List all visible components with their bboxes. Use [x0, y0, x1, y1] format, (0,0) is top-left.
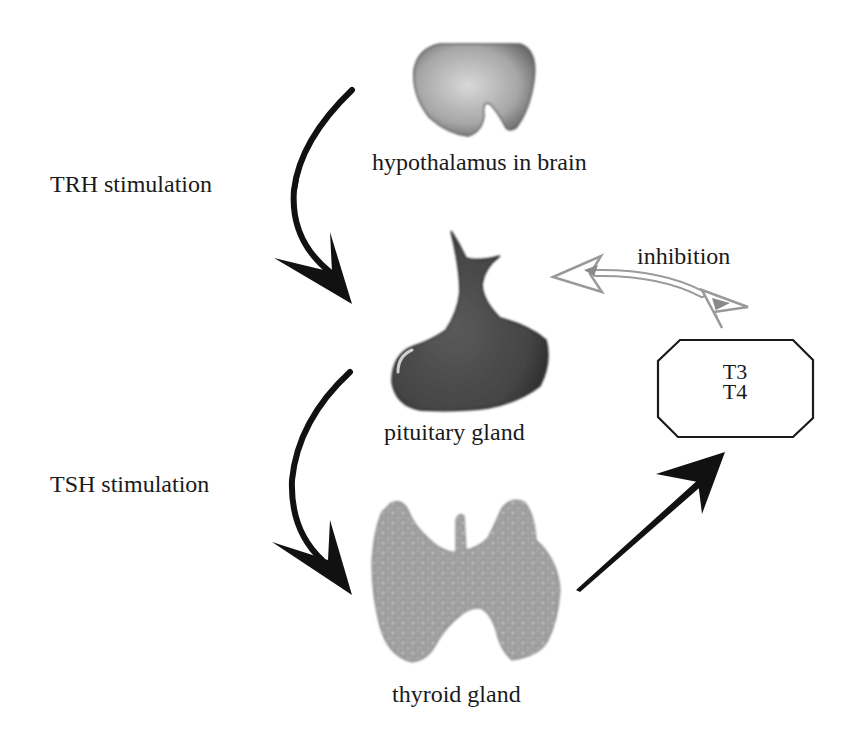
pituitary-shape	[392, 231, 548, 411]
hormone-t4: T4	[700, 382, 770, 402]
thyroid-shape	[372, 500, 560, 662]
hpt-axis-diagram: TRH stimulation TSH stimulation hypothal…	[0, 0, 860, 756]
hormone-box-text: T3 T4	[700, 362, 770, 402]
release-arrow	[576, 452, 725, 592]
tsh-label: TSH stimulation	[50, 472, 209, 496]
hypothalamus-shape	[414, 44, 535, 136]
trh-arrow	[274, 90, 352, 304]
thyroid-label: thyroid gland	[392, 682, 521, 706]
tsh-arrow	[272, 372, 352, 595]
hypothalamus-label: hypothalamus in brain	[372, 150, 587, 174]
trh-label: TRH stimulation	[50, 172, 212, 196]
inhibition-label: inhibition	[637, 244, 730, 268]
pituitary-label: pituitary gland	[384, 420, 525, 444]
